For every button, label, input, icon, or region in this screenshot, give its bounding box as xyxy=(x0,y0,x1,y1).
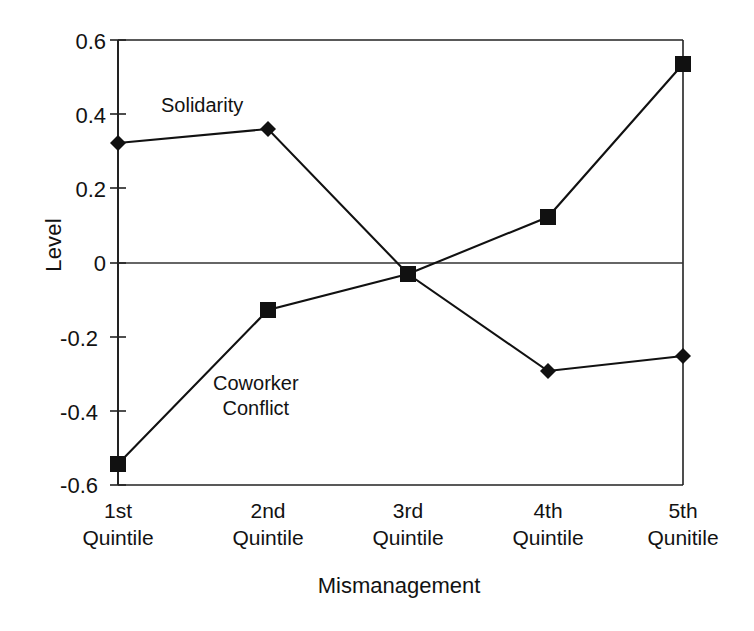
x-tick-label-3-line-1: 4th xyxy=(473,497,623,524)
x-tick-label-1-line-2: Quintile xyxy=(193,524,343,551)
x-tick-label-2-line-2: Quintile xyxy=(333,524,483,551)
series-solidarity xyxy=(110,121,691,379)
x-tick-label-3: 4th Quintile xyxy=(473,497,623,551)
series-coworker-conflict xyxy=(110,56,691,472)
series-solidarity-markers xyxy=(110,121,691,379)
x-tick-label-2: 3rd Quintile xyxy=(333,497,483,551)
x-tick-label-1-line-1: 2nd xyxy=(193,497,343,524)
x-tick-label-4: 5th Qunitile xyxy=(608,497,754,551)
x-tick-label-2-line-1: 3rd xyxy=(333,497,483,524)
x-tick-label-3-line-2: Quintile xyxy=(473,524,623,551)
coworker-conflict-label-line-1: Coworker xyxy=(213,371,299,396)
x-tick-label-0-line-1: 1st xyxy=(43,497,193,524)
x-tick-label-0-line-2: Quintile xyxy=(43,524,193,551)
x-tick-label-4-line-1: 5th xyxy=(608,497,754,524)
coworker-conflict-label-line-2: Conflict xyxy=(213,396,299,421)
line-chart-figure: Level 0.6 0.4 0.2 0 -0.2 -0.4 -0.6 xyxy=(0,0,754,631)
solidarity-series-label: Solidarity xyxy=(161,93,243,118)
x-tick-label-1: 2nd Quintile xyxy=(193,497,343,551)
x-axis-title: Mismanagement xyxy=(234,573,564,599)
x-tick-label-0: 1st Quintile xyxy=(43,497,193,551)
coworker-conflict-series-label: Coworker Conflict xyxy=(213,371,299,421)
series-coworker-conflict-markers xyxy=(110,56,691,472)
x-tick-label-4-line-2: Qunitile xyxy=(608,524,754,551)
